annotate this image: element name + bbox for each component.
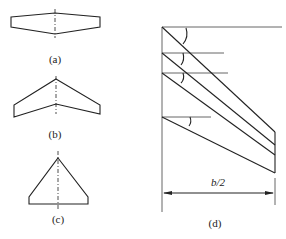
panel-a-label: (a) (49, 53, 62, 66)
quarter-chord-line (162, 53, 275, 145)
panel-b-wing (14, 76, 100, 117)
trailing-edge-line (162, 117, 275, 173)
arrow-left-icon (163, 191, 172, 195)
wing-planform-diagram: (a) (b) (c) b/2 (d) (0, 0, 286, 239)
panel-d-label: (d) (209, 217, 222, 230)
sweep-angle-arc-1 (183, 28, 187, 44)
panel-b-label: (b) (49, 128, 62, 141)
arrow-right-icon (265, 191, 274, 195)
sweep-angle-arc-3 (181, 73, 184, 83)
panel-c-label: (c) (52, 213, 65, 226)
half-chord-line (162, 73, 275, 155)
panel-a-wing (11, 9, 100, 38)
half-span-label: b/2 (211, 176, 226, 188)
panel-c-wing (29, 151, 88, 210)
sweep-angle-arc-4 (189, 117, 191, 126)
leading-edge-line (162, 27, 275, 132)
sweep-angle-arc-2 (181, 53, 184, 65)
